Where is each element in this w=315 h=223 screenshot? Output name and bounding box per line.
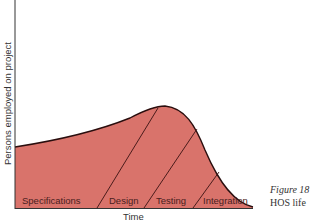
staffing-area [15,106,253,208]
figure-caption-number: Figure 18 [270,184,309,195]
phase-testing: Testing [156,195,186,206]
figure-caption-text: HOS life [270,197,306,208]
phase-integration: Integration [203,195,248,206]
phase-design: Design [109,195,139,206]
y-axis-label: Persons employed on project [2,39,13,169]
staffing-curve-diagram [0,0,315,223]
x-axis-label: Time [123,211,144,222]
phase-specifications: Specifications [22,195,81,206]
